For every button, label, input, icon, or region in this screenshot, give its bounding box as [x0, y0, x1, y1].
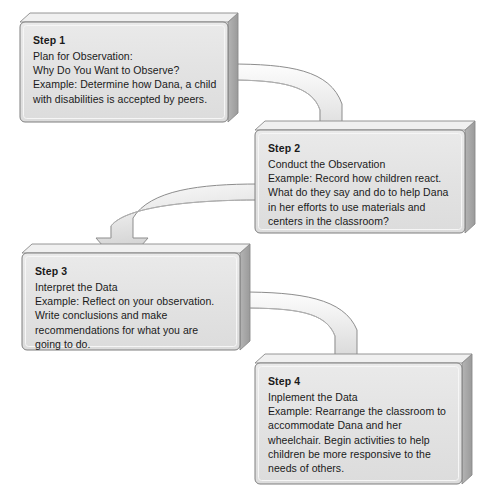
- step-4-content: Step 4 Inplement the Data Example: Rearr…: [268, 374, 452, 475]
- step-1-example: Example: Determine how Dana, a child wit…: [33, 77, 223, 105]
- step-1-title: Step 1: [33, 33, 223, 47]
- step-3-line-1: Interpret the Data: [35, 280, 227, 294]
- step-1-line-1: Plan for Observation:: [33, 49, 223, 63]
- step-2-example: Example: Record how children react. What…: [268, 171, 454, 228]
- step-3-content: Step 3 Interpret the Data Example: Refle…: [35, 264, 227, 351]
- step-4-line-1: Inplement the Data: [268, 390, 452, 404]
- step-3-title: Step 3: [35, 264, 227, 278]
- diagram-page: Step 1 Plan for Observation: Why Do You …: [0, 0, 491, 497]
- step-2-line-1: Conduct the Observation: [268, 157, 454, 171]
- step-2-content: Step 2 Conduct the Observation Example: …: [268, 141, 454, 228]
- step-4-example: Example: Rearrange the classroom to acco…: [268, 404, 452, 475]
- step-4-title: Step 4: [268, 374, 452, 388]
- step-3-example: Example: Reflect on your observation. Wr…: [35, 294, 227, 351]
- step-1-line-2: Why Do You Want to Observe?: [33, 63, 223, 77]
- step-2-title: Step 2: [268, 141, 454, 155]
- step-1-content: Step 1 Plan for Observation: Why Do You …: [33, 33, 223, 106]
